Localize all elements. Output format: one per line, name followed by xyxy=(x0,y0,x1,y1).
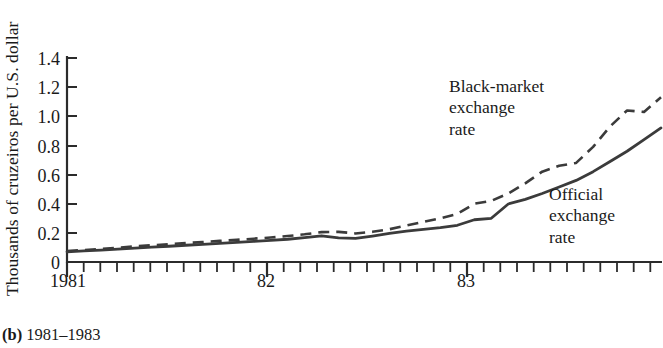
annotation-official-line-3: rate xyxy=(549,227,615,248)
annotation-official-line-2: exchange xyxy=(549,205,615,226)
figure-caption-label: (b) xyxy=(2,325,22,344)
annotation-black-market-line-2: exchange xyxy=(449,97,544,118)
figure-caption-range: 1981–1983 xyxy=(26,325,100,344)
figure-caption: (b) 1981–1983 xyxy=(2,325,101,345)
y-axis-ticks xyxy=(67,58,77,233)
annotation-black-market-label: Black-market exchange rate xyxy=(449,76,544,140)
annotation-official-label: Official exchange rate xyxy=(549,184,615,248)
plot-area xyxy=(0,0,663,348)
x-axis-minor-ticks xyxy=(84,262,651,272)
annotation-official-line-1: Official xyxy=(549,184,615,205)
x-axis-major-ticks xyxy=(67,262,467,277)
annotation-black-market-line-1: Black-market xyxy=(449,76,544,97)
annotation-black-market-line-3: rate xyxy=(449,119,544,140)
chart-figure: Thousands of cruzeiros per U.S. dollar 1… xyxy=(0,0,663,348)
